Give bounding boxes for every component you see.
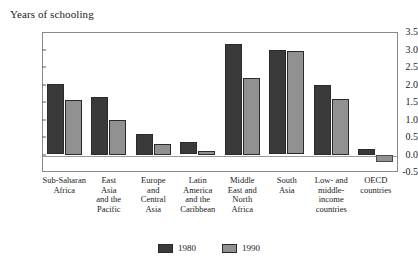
bar-group — [354, 32, 399, 172]
bar — [269, 50, 286, 154]
bar — [47, 84, 64, 155]
x-axis-category-label: OECDcountries — [348, 176, 405, 195]
y-axis-title: Years of schooling — [10, 8, 94, 20]
bar-group — [176, 32, 221, 172]
bar — [109, 120, 126, 155]
legend-label: 1990 — [242, 244, 260, 253]
bar — [180, 142, 197, 155]
bar — [225, 44, 242, 154]
x-axis-category-labels: Sub-SaharanAfricaEastAsiaand thePacificE… — [42, 176, 398, 234]
legend-label: 1980 — [178, 244, 196, 253]
bar — [358, 149, 375, 154]
bar — [136, 134, 153, 155]
bar-group — [220, 32, 265, 172]
bar-group — [42, 32, 87, 172]
legend-item[interactable]: 1980 — [158, 244, 196, 253]
bar — [243, 78, 260, 155]
bar — [376, 155, 393, 162]
label-line: countries — [348, 186, 405, 196]
bar — [287, 51, 304, 155]
bar-group — [265, 32, 310, 172]
bar — [65, 100, 82, 154]
bar — [154, 144, 171, 155]
bar — [332, 99, 349, 155]
chart-legend: 19801990 — [0, 244, 418, 253]
bar — [198, 151, 215, 155]
bar — [91, 97, 108, 155]
bar-chart: Years of schooling 3.53.02.52.01.51.00.5… — [0, 0, 418, 268]
bar-group — [87, 32, 132, 172]
label-line: Africa — [214, 205, 271, 215]
legend-color-swatch — [158, 244, 173, 253]
bar-group — [309, 32, 354, 172]
label-line: countries — [303, 205, 360, 215]
bar-group — [131, 32, 176, 172]
bar — [314, 85, 331, 155]
legend-color-swatch — [222, 244, 237, 253]
bar-series-layer — [42, 32, 398, 172]
legend-item[interactable]: 1990 — [222, 244, 260, 253]
